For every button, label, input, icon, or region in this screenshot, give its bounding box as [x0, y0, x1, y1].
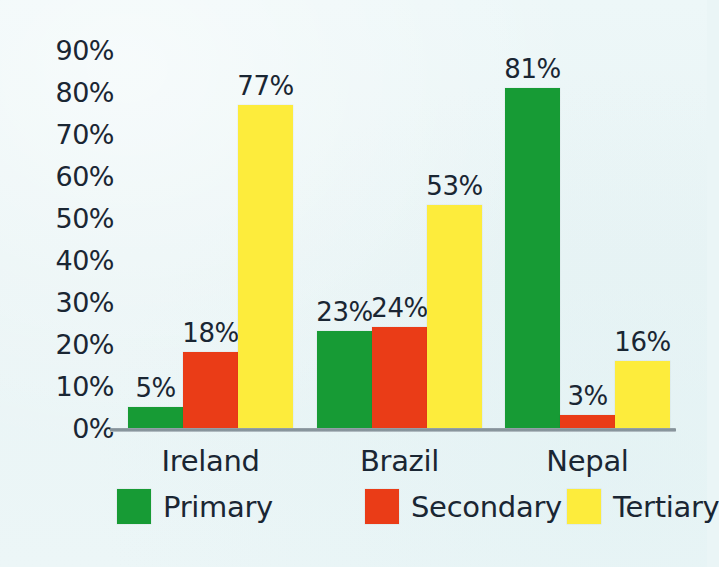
bar-value-label: 77%: [237, 71, 293, 101]
legend-item-primary[interactable]: Primary: [117, 489, 273, 524]
bar-value-label: 53%: [426, 171, 482, 201]
bar-rect[interactable]: [427, 205, 482, 428]
y-axis: 90%80%70%60%50%40%30%20%10%0%: [18, 0, 114, 567]
bar-ireland-tertiary[interactable]: 77%: [238, 65, 293, 428]
category-axis-labels: IrelandBrazilNepal: [118, 444, 666, 486]
y-axis-tick-label: 90%: [18, 35, 114, 66]
plot-area: 5%18%77%23%24%53%81%3%16%: [118, 36, 666, 428]
bar-group-brazil: 23%24%53%: [317, 36, 482, 428]
y-axis-tick-label: 50%: [18, 203, 114, 234]
y-axis-tick-label: 60%: [18, 161, 114, 192]
bar-value-label: 3%: [567, 381, 607, 411]
y-axis-tick-label: 30%: [18, 287, 114, 318]
bar-rect[interactable]: [372, 327, 427, 428]
bar-value-label: 24%: [371, 293, 427, 323]
bar-rect[interactable]: [317, 331, 372, 428]
legend-item-label: Secondary: [411, 490, 562, 524]
bar-rect[interactable]: [505, 88, 560, 428]
legend-swatch-icon: [365, 489, 399, 524]
bar-brazil-primary[interactable]: 23%: [317, 291, 372, 428]
legend-swatch-icon: [567, 489, 601, 524]
category-label-ireland: Ireland: [161, 444, 259, 478]
bar-nepal-tertiary[interactable]: 16%: [615, 321, 670, 428]
bar-rect[interactable]: [183, 352, 238, 428]
bar-value-label: 81%: [504, 54, 560, 84]
legend-item-label: Tertiary: [613, 490, 719, 524]
bar-brazil-secondary[interactable]: 24%: [372, 287, 427, 428]
y-axis-tick-label: 10%: [18, 371, 114, 402]
chart-legend: PrimarySecondaryTertiary: [110, 489, 670, 533]
category-label-brazil: Brazil: [360, 444, 439, 478]
bar-rect[interactable]: [560, 415, 615, 428]
bar-rect[interactable]: [615, 361, 670, 428]
bar-value-label: 23%: [316, 297, 372, 327]
y-axis-tick-label: 20%: [18, 329, 114, 360]
legend-item-tertiary[interactable]: Tertiary: [567, 489, 719, 524]
bar-ireland-secondary[interactable]: 18%: [183, 312, 238, 428]
bar-ireland-primary[interactable]: 5%: [128, 367, 183, 428]
bar-rect[interactable]: [238, 105, 293, 428]
bar-value-label: 18%: [182, 318, 238, 348]
bar-group-ireland: 5%18%77%: [128, 36, 293, 428]
y-axis-tick-label: 70%: [18, 119, 114, 150]
bar-brazil-tertiary[interactable]: 53%: [427, 165, 482, 428]
category-label-nepal: Nepal: [546, 444, 628, 478]
legend-item-secondary[interactable]: Secondary: [365, 489, 562, 524]
y-axis-tick-label: 40%: [18, 245, 114, 276]
y-axis-tick-label: 0%: [18, 413, 114, 444]
legend-item-label: Primary: [163, 490, 273, 524]
y-axis-tick-label: 80%: [18, 77, 114, 108]
x-axis-baseline: [110, 428, 676, 432]
legend-swatch-icon: [117, 489, 151, 524]
bar-nepal-primary[interactable]: 81%: [505, 48, 560, 428]
bar-nepal-secondary[interactable]: 3%: [560, 375, 615, 428]
bar-value-label: 5%: [135, 373, 175, 403]
bar-group-nepal: 81%3%16%: [505, 36, 670, 428]
bar-value-label: 16%: [614, 327, 670, 357]
bar-rect[interactable]: [128, 407, 183, 428]
